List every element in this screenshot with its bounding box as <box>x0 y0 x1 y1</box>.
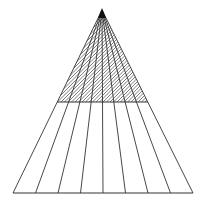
hatch-pattern <box>0 0 208 207</box>
apex-tip <box>98 8 106 18</box>
triangle-fan-diagram <box>0 0 208 207</box>
